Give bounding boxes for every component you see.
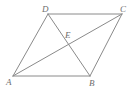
vertex-label-E: E bbox=[65, 31, 71, 40]
geometry-canvas bbox=[0, 0, 135, 91]
vertex-label-D: D bbox=[42, 5, 49, 14]
vertex-label-B: B bbox=[89, 79, 95, 88]
segment-side-DA bbox=[13, 14, 48, 76]
vertex-label-A: A bbox=[6, 78, 12, 87]
vertex-label-C: C bbox=[120, 5, 126, 14]
segment-diagonal-DB bbox=[48, 14, 90, 76]
geometry-figure: D C E A B bbox=[0, 0, 135, 91]
